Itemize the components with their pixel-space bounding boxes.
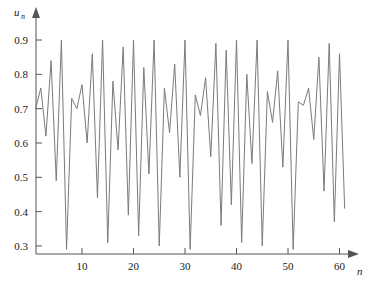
chart-container: 0.30.40.50.60.70.80.9 102030405060 u n n (0, 0, 369, 289)
y-tick-label: 0.3 (14, 240, 28, 252)
y-axis-label: u (14, 6, 20, 18)
y-tick-label: 0.9 (14, 34, 28, 46)
data-series-line (36, 40, 345, 249)
x-axis-group: 102030405060 (36, 248, 359, 272)
y-tick-label: 0.4 (14, 206, 28, 218)
x-axis-ticks: 102030405060 (77, 248, 346, 272)
y-tick-label: 0.7 (14, 103, 28, 115)
x-tick-label: 60 (334, 260, 346, 272)
x-axis-arrowhead (348, 250, 359, 258)
y-axis-group: 0.30.40.50.60.70.80.9 (14, 7, 42, 254)
x-tick-label: 20 (128, 260, 140, 272)
x-axis-label: n (357, 265, 363, 277)
y-axis-arrowhead (32, 7, 40, 18)
y-tick-label: 0.6 (14, 137, 28, 149)
y-axis-ticks: 0.30.40.50.60.70.80.9 (14, 34, 42, 252)
x-tick-label: 50 (283, 260, 295, 272)
y-tick-label: 0.8 (14, 68, 28, 80)
y-tick-label: 0.5 (14, 171, 28, 183)
x-tick-label: 40 (231, 260, 243, 272)
x-tick-label: 10 (77, 260, 89, 272)
x-tick-label: 30 (180, 260, 192, 272)
y-axis-label-subscript: n (21, 12, 25, 21)
line-chart: 0.30.40.50.60.70.80.9 102030405060 u n n (0, 0, 369, 289)
